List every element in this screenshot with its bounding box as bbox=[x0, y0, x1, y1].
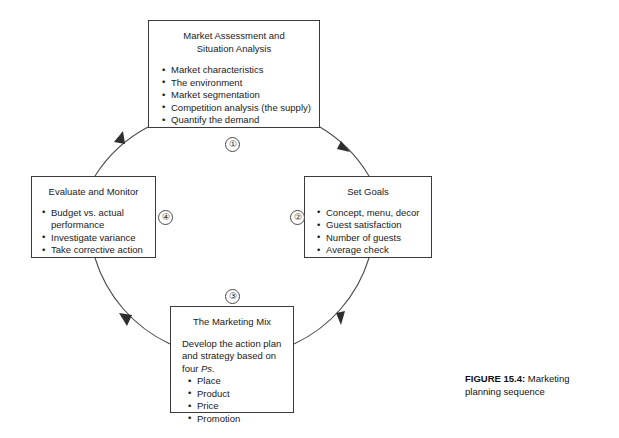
list-item: Product bbox=[188, 388, 293, 401]
figure-caption: FIGURE 15.4: Marketing planning sequence bbox=[465, 372, 605, 398]
list-item: Competition analysis (the supply) bbox=[162, 102, 319, 115]
node-marketing-mix: The Marketing Mix Develop the action pla… bbox=[170, 306, 294, 413]
arc-step2-to-step3 bbox=[294, 258, 369, 344]
list-item: Average check bbox=[317, 244, 431, 257]
list-item: Promotion bbox=[188, 413, 293, 426]
step-marker-2: ② bbox=[290, 210, 305, 225]
node-marketing-mix-intro-after: . bbox=[212, 363, 215, 374]
node-marketing-mix-title: The Marketing Mix bbox=[171, 316, 293, 329]
step-marker-4: ④ bbox=[158, 210, 173, 225]
node-evaluate-and-monitor-bullets: Budget vs. actual performance Investigat… bbox=[42, 207, 155, 257]
list-item: Number of guests bbox=[317, 232, 431, 245]
node-evaluate-and-monitor: Evaluate and Monitor Budget vs. actual p… bbox=[31, 176, 156, 258]
node-set-goals-bullets: Concept, menu, decor Guest satisfaction … bbox=[317, 207, 431, 257]
node-marketing-mix-intro-italic: Ps bbox=[201, 363, 212, 374]
node-set-goals: Set Goals Concept, menu, decor Guest sat… bbox=[304, 176, 432, 258]
list-item: Investigate variance bbox=[42, 232, 155, 245]
node-marketing-mix-intro: Develop the action plan and strategy bas… bbox=[182, 338, 286, 376]
node-market-assessment-title: Market Assessment and Situation Analysis bbox=[149, 30, 319, 55]
arc-step1-to-step2 bbox=[320, 127, 369, 176]
figure-marketing-planning-sequence: Market Assessment and Situation Analysis… bbox=[0, 0, 619, 438]
step-marker-3: ③ bbox=[225, 289, 240, 304]
list-item: Concept, menu, decor bbox=[317, 207, 431, 220]
list-item: Guest satisfaction bbox=[317, 219, 431, 232]
list-item: Take corrective action bbox=[42, 244, 155, 257]
node-market-assessment-bullets: Market characteristics The environment M… bbox=[162, 64, 319, 127]
list-item: The environment bbox=[162, 77, 319, 90]
list-item: Place bbox=[188, 375, 293, 388]
step-marker-1: ① bbox=[225, 137, 240, 152]
node-evaluate-and-monitor-title: Evaluate and Monitor bbox=[32, 186, 155, 199]
arc-step4-to-step1 bbox=[95, 127, 148, 176]
figure-caption-label: FIGURE 15.4: bbox=[465, 373, 525, 384]
node-marketing-mix-intro-before: Develop the action plan and strategy bas… bbox=[182, 338, 281, 374]
list-item: Price bbox=[188, 400, 293, 413]
node-market-assessment: Market Assessment and Situation Analysis… bbox=[148, 20, 320, 128]
arc-step3-to-step4 bbox=[95, 258, 170, 344]
node-marketing-mix-bullets: Place Product Price Promotion bbox=[188, 375, 293, 425]
list-item: Budget vs. actual performance bbox=[42, 207, 147, 232]
node-set-goals-title: Set Goals bbox=[305, 186, 431, 199]
list-item: Market segmentation bbox=[162, 89, 319, 102]
list-item: Market characteristics bbox=[162, 64, 319, 77]
list-item: Quantify the demand bbox=[162, 114, 319, 127]
